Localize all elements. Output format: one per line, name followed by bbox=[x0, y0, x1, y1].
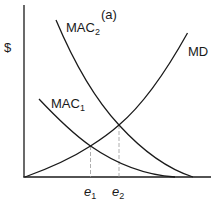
e2-tick-label: e2 bbox=[112, 184, 124, 201]
y-axis-label: $ bbox=[4, 40, 12, 55]
abatement-diagram: (a) $ MD MAC2 MAC1 e1 e2 bbox=[0, 0, 214, 201]
mac1-label: MAC1 bbox=[51, 96, 85, 113]
panel-label: (a) bbox=[101, 7, 117, 22]
md-label: MD bbox=[188, 44, 208, 59]
mac2-label: MAC2 bbox=[66, 20, 100, 37]
e1-tick-label: e1 bbox=[84, 184, 96, 201]
